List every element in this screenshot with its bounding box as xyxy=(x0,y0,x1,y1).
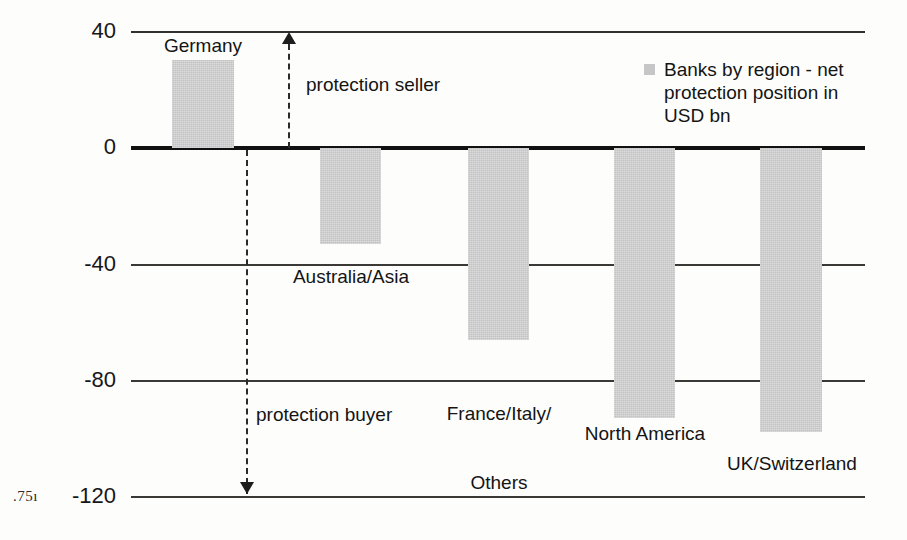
bar-label-france-italy-others-line1: France/Italy/ xyxy=(430,402,568,425)
ytick-label-minus-80: -80 xyxy=(30,369,116,391)
ytick-label-40: 40 xyxy=(30,20,116,42)
bar-chart-plot-area: 40 0 -40 -80 -120 Germany Australia/Asia… xyxy=(0,0,907,540)
legend-swatch-icon xyxy=(644,64,655,75)
ytick-label-0: 0 xyxy=(30,136,116,158)
reference-dashed-vertical-line xyxy=(246,150,248,494)
chart-screenshot: 40 0 -40 -80 -120 Germany Australia/Asia… xyxy=(0,0,907,540)
bar-uk-switzerland[interactable] xyxy=(760,148,822,432)
ytick-label-minus-40: -40 xyxy=(30,253,116,275)
bar-north-america[interactable] xyxy=(614,148,675,418)
ytick-label-minus-120: -120 xyxy=(30,485,116,507)
bar-france-italy-others[interactable] xyxy=(468,148,529,340)
legend-label: Banks by region - net protection positio… xyxy=(664,58,869,127)
legend: Banks by region - net protection positio… xyxy=(644,58,869,127)
bar-australia-asia[interactable] xyxy=(320,148,381,244)
bar-label-australia-asia: Australia/Asia xyxy=(282,265,420,288)
page-folio-artifact: .75ı xyxy=(13,488,38,505)
gridline-40 xyxy=(131,31,865,33)
bar-label-uk-switzerland: UK/Switzerland xyxy=(716,452,868,475)
bar-germany[interactable] xyxy=(172,60,234,148)
bar-label-germany: Germany xyxy=(142,34,264,57)
bar-label-france-italy-others: France/Italy/ Others xyxy=(430,356,568,540)
bar-label-france-italy-others-line2: Others xyxy=(430,471,568,494)
annotation-protection-buyer: protection buyer xyxy=(256,404,392,426)
arrow-up-icon xyxy=(282,32,296,44)
bar-label-north-america: North America xyxy=(575,422,715,445)
arrow-down-icon xyxy=(240,482,254,494)
protection-seller-arrow-shaft xyxy=(288,44,290,148)
annotation-protection-seller: protection seller xyxy=(306,74,440,96)
